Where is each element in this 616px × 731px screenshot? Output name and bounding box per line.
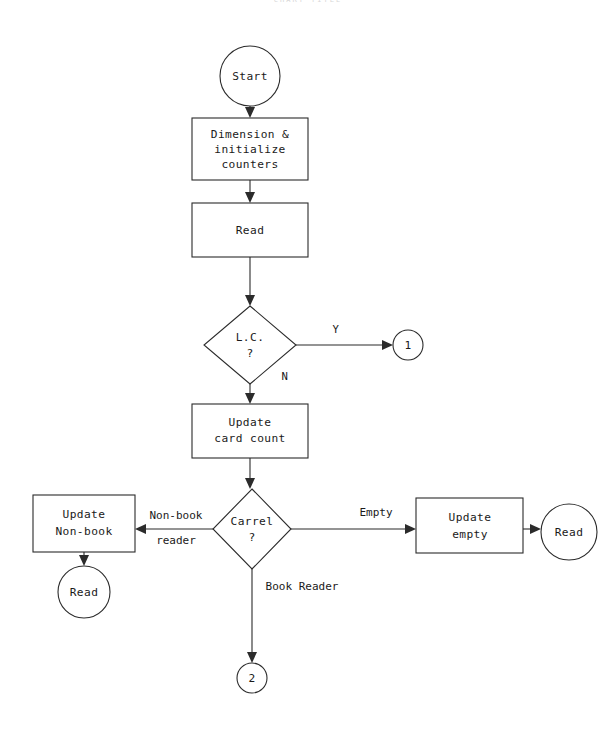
- node-lc-label-line2: ?: [246, 347, 253, 360]
- edge-label-no: N: [282, 370, 289, 382]
- node-update-empty-label-line2: empty: [452, 528, 488, 541]
- edge-start-to-dimension: [245, 106, 255, 118]
- edge-update-card-count-to-carrel: [245, 458, 255, 489]
- node-update-nonbook-label-line1: Update: [63, 508, 106, 521]
- node-read-1-label: Read: [236, 224, 265, 237]
- node-start[interactable]: Start: [220, 46, 280, 106]
- edge-read-to-lc-decision: [245, 257, 255, 306]
- node-update-nonbook[interactable]: Update Non-book: [33, 495, 135, 552]
- node-update-empty-label-line1: Update: [449, 511, 492, 524]
- node-read-2-label: Read: [70, 586, 99, 599]
- node-read-3[interactable]: Read: [541, 504, 597, 560]
- node-update-card-count-label-line2: card count: [214, 432, 285, 445]
- node-connector-2[interactable]: 2: [237, 663, 267, 693]
- node-read-3-label: Read: [555, 526, 584, 539]
- node-dimension-label-line3: counters: [221, 158, 278, 171]
- node-dimension-label-line2: initialize: [214, 143, 285, 156]
- edge-update-empty-to-read: [523, 524, 541, 534]
- node-carrel-label-line2: ?: [248, 531, 255, 544]
- node-carrel-label-line1: Carrel: [231, 515, 274, 528]
- node-connector-1-label: 1: [404, 339, 411, 352]
- node-update-card-count[interactable]: Update card count: [192, 404, 308, 458]
- edge-label-nonbook-line1: Non-book: [150, 509, 203, 522]
- node-start-label: Start: [232, 70, 268, 83]
- edge-carrel-to-update-empty: Empty: [291, 506, 416, 534]
- flowchart-page: CHART TITLE Y N: [0, 0, 616, 731]
- node-read-1[interactable]: Read: [192, 203, 308, 257]
- node-lc-label-line1: L.C.: [236, 331, 265, 344]
- node-carrel-decision[interactable]: Carrel ?: [213, 489, 291, 569]
- node-update-empty[interactable]: Update empty: [416, 498, 523, 553]
- edge-label-nonbook-line2: reader: [156, 534, 196, 547]
- node-update-card-count-label-line1: Update: [229, 416, 272, 429]
- node-update-nonbook-label-line2: Non-book: [55, 525, 112, 538]
- edge-label-yes: Y: [333, 323, 340, 335]
- node-connector-2-label: 2: [248, 672, 255, 685]
- edge-update-nonbook-to-read: [79, 552, 89, 566]
- edge-dimension-to-read: [245, 180, 255, 203]
- edge-carrel-to-update-nonbook: Non-book reader: [135, 509, 213, 547]
- node-dimension-initialize-counters[interactable]: Dimension & initialize counters: [192, 118, 308, 180]
- edge-carrel-to-connector-2: Book Reader: [247, 569, 339, 663]
- node-read-2[interactable]: Read: [58, 566, 110, 618]
- node-connector-1[interactable]: 1: [393, 330, 423, 360]
- edge-label-empty: Empty: [359, 506, 392, 519]
- edge-lc-yes-to-connector-1: Y: [296, 323, 393, 350]
- node-dimension-label-line1: Dimension &: [211, 128, 290, 141]
- edge-label-book-reader: Book Reader: [266, 580, 339, 593]
- flowchart-canvas: Y N Non-book reader Empty: [0, 0, 616, 731]
